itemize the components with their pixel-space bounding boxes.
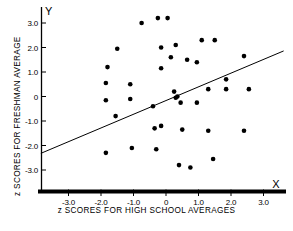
data-point	[177, 163, 182, 168]
data-point	[242, 54, 247, 59]
y-tick-labels: 3.0 2.0 1.0 0 -1.0 -2.0 -3.0	[25, 19, 39, 175]
data-point	[175, 94, 180, 99]
scatter-plot-figure: 3.0 2.0 1.0 0 -1.0 -2.0 -3.0 -3.0 -2.0 -…	[0, 0, 293, 231]
data-point	[154, 147, 159, 152]
y-tick-label: -3.0	[25, 166, 39, 175]
data-point	[128, 82, 133, 87]
y-tick-label: -2.0	[25, 142, 39, 151]
data-point	[165, 16, 170, 21]
x-axis-title: z SCORES FOR HIGH SCHOOL AVERAGES	[0, 206, 293, 215]
data-point	[199, 38, 204, 43]
data-point	[172, 89, 177, 94]
data-point	[173, 43, 178, 48]
y-tick-label: 2.0	[27, 44, 38, 53]
data-point	[212, 38, 217, 43]
data-point	[188, 165, 193, 170]
data-point	[104, 151, 109, 156]
data-point	[159, 124, 164, 129]
y-tick-label: 3.0	[27, 19, 38, 28]
y-axis-ticks	[42, 23, 47, 170]
data-point	[156, 16, 161, 21]
data-point	[195, 60, 200, 65]
data-point	[169, 55, 174, 60]
data-point	[206, 129, 211, 134]
regression-line	[41, 51, 284, 153]
y-tick-label: 1.0	[27, 68, 38, 77]
data-point	[152, 126, 157, 131]
data-point	[178, 100, 183, 105]
y-tick-label: 0	[34, 93, 39, 102]
data-point	[242, 129, 247, 134]
y-tick-label: -1.0	[25, 117, 39, 126]
data-point	[113, 114, 118, 119]
data-point	[139, 21, 144, 26]
scatter-plot-canvas: 3.0 2.0 1.0 0 -1.0 -2.0 -3.0 -3.0 -2.0 -…	[0, 0, 293, 231]
data-point	[115, 46, 120, 51]
data-point	[105, 65, 110, 70]
data-point	[206, 87, 211, 92]
data-point	[159, 66, 164, 71]
y-axis-title: z SCORES FOR FRESHMAN AVERAGE	[11, 0, 25, 196]
data-point	[247, 87, 252, 92]
data-points-group	[104, 16, 252, 170]
y-axis-name: Y	[45, 5, 53, 17]
data-point	[104, 98, 109, 103]
data-point	[130, 146, 135, 151]
data-point	[159, 45, 164, 50]
data-point	[151, 104, 156, 109]
data-point	[180, 127, 185, 132]
data-point	[224, 87, 229, 92]
data-point	[104, 81, 109, 86]
data-point	[224, 77, 229, 82]
data-point	[185, 57, 190, 62]
data-point	[195, 100, 200, 105]
x-axis-name: X	[272, 178, 280, 190]
data-point	[211, 157, 216, 162]
data-point	[128, 97, 133, 102]
